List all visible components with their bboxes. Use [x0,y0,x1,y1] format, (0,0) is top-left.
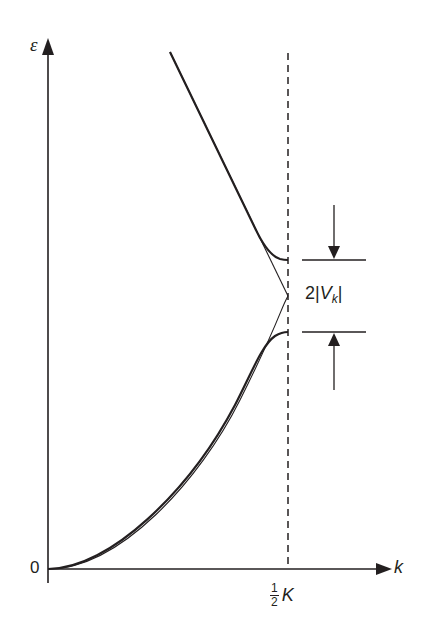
lower-band-curve [48,332,288,569]
potential-symbol: V [320,283,332,303]
y-axis-label: ε [30,34,38,56]
free-electron-curves [48,52,288,569]
up-arrow-icon [328,333,340,346]
upper-band-curve [170,52,288,260]
axes [42,38,392,583]
band-curves [48,52,288,569]
reciprocal-vector-symbol: K [282,585,294,605]
band-diagram [0,0,426,633]
half-fraction: 1 2 [270,582,279,609]
y-axis-arrow-icon [42,38,54,55]
zone-boundary-label: 1 2 K [270,582,294,609]
gap-prefix: 2 [305,283,315,303]
free-electron-parabola [48,296,288,569]
gap-label: 2|Vk| [305,283,342,306]
down-arrow-icon [328,246,340,259]
fraction-numerator: 1 [270,582,279,596]
abs-bar-right: | [338,283,343,303]
x-axis-arrow-icon [376,563,392,575]
fraction-denominator: 2 [270,596,279,609]
x-axis-label: k [394,557,403,578]
origin-label: 0 [30,558,39,578]
